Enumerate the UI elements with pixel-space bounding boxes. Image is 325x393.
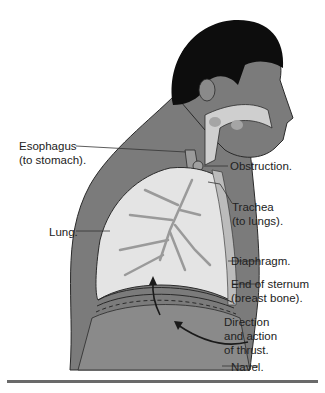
label-sternum: End of sternum (breast bone). (231, 277, 309, 305)
label-diaphragm: Diaphragm. (231, 254, 290, 268)
label-thrust: Direction and action of thrust. (224, 315, 277, 357)
label-trachea: Trachea (to lungs). (232, 200, 283, 228)
anatomy-illustration: Esophagus (to stomach). Obstruction. Tra… (0, 0, 325, 393)
label-lung: Lung. (49, 225, 78, 239)
ear-shape (199, 79, 215, 101)
label-navel: Navel. (231, 360, 264, 374)
bottom-rule (7, 380, 318, 383)
label-obstruction: Obstruction. (230, 159, 292, 173)
label-esophagus: Esophagus (to stomach). (19, 139, 86, 167)
